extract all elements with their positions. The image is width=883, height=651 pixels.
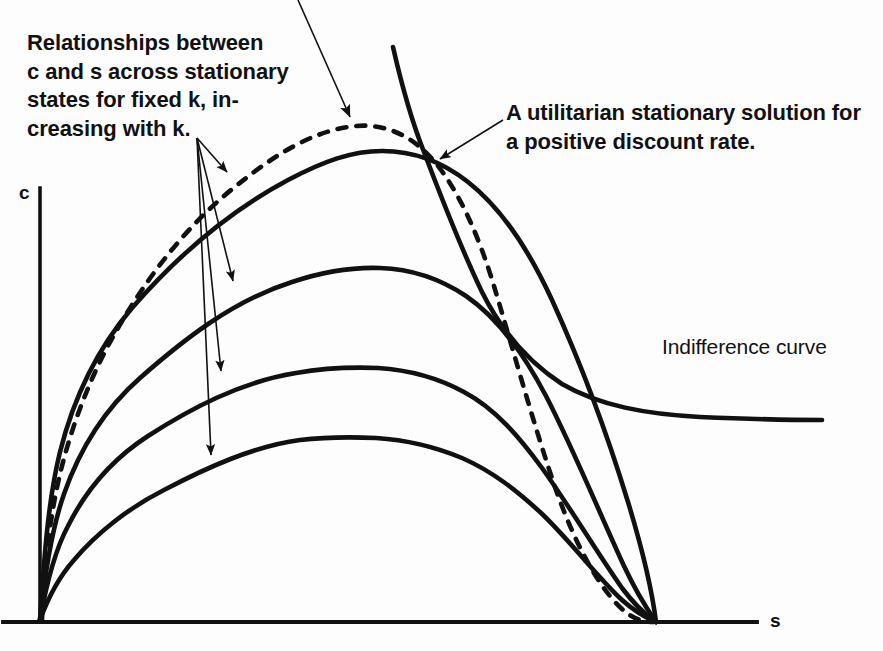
annotation-utilitarian-solution-text: A utilitarian stationary solution for a … bbox=[506, 98, 861, 156]
curve-stationary-k1 bbox=[40, 437, 656, 622]
y-axis-label: c bbox=[19, 183, 30, 202]
x-axis-label: s bbox=[770, 611, 781, 630]
annotation-indifference-curve-label: Indifference curve bbox=[662, 333, 827, 362]
curve-dashed-locus-of-maxima bbox=[42, 126, 654, 622]
annotation-relationships-text: Relationships between c and s across sta… bbox=[27, 29, 289, 143]
pointer-to-utilitarian-solution-icon bbox=[440, 120, 503, 159]
curve-stationary-k2 bbox=[40, 368, 656, 622]
figure-root: Relationships between c and s across sta… bbox=[0, 0, 883, 651]
pointer-to-dashed-locus-icon bbox=[298, 0, 350, 117]
pointer-fan-to-curve-k2-icon bbox=[197, 138, 221, 371]
